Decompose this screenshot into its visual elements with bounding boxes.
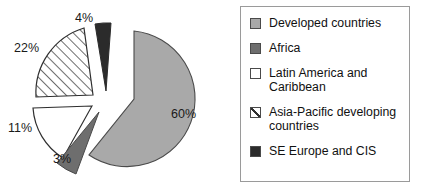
legend-item-latin-america-and-caribbean: Latin America and Caribbean	[250, 66, 405, 94]
legend-item-se-europe-and-cis: SE Europe and CIS	[250, 144, 405, 158]
pie-slice-asia-pacific-developing-countries	[36, 28, 93, 97]
pie-label-developed-countries: 60%	[171, 107, 196, 121]
legend-swatch-developed-countries	[250, 18, 261, 29]
legend-label-latin-america-and-caribbean: Latin America and Caribbean	[269, 66, 405, 94]
pie-label-asia-pacific-developing-countries: 22%	[14, 41, 39, 55]
pie-slice-se-europe-and-cis	[95, 23, 111, 91]
legend-item-developed-countries: Developed countries	[250, 16, 405, 30]
legend-swatch-asia-pacific-developing-countries	[250, 107, 261, 118]
legend-label-africa: Africa	[269, 41, 300, 55]
pie-chart-svg	[0, 0, 232, 195]
legend-item-asia-pacific-developing-countries: Asia-Pacific developing countries	[250, 105, 405, 133]
legend-label-asia-pacific-developing-countries: Asia-Pacific developing countries	[269, 105, 405, 133]
legend-label-developed-countries: Developed countries	[269, 16, 381, 30]
chart-legend: Developed countries Africa Latin America…	[240, 6, 410, 182]
pie-label-africa: 3%	[53, 152, 71, 166]
legend-swatch-se-europe-and-cis	[250, 146, 261, 157]
pie-chart-plot: 60% 3% 11% 22% 4%	[0, 0, 232, 195]
legend-swatch-africa	[250, 43, 261, 54]
legend-label-se-europe-and-cis: SE Europe and CIS	[269, 144, 376, 158]
pie-label-se-europe-and-cis: 4%	[75, 11, 93, 25]
legend-item-africa: Africa	[250, 41, 405, 55]
legend-swatch-latin-america-and-caribbean	[250, 68, 261, 79]
pie-label-latin-america-and-caribbean: 11%	[8, 121, 32, 135]
pie-chart-figure: 60% 3% 11% 22% 4% Developed countries Af…	[0, 0, 421, 195]
legend-item-list: Developed countries Africa Latin America…	[250, 16, 405, 158]
